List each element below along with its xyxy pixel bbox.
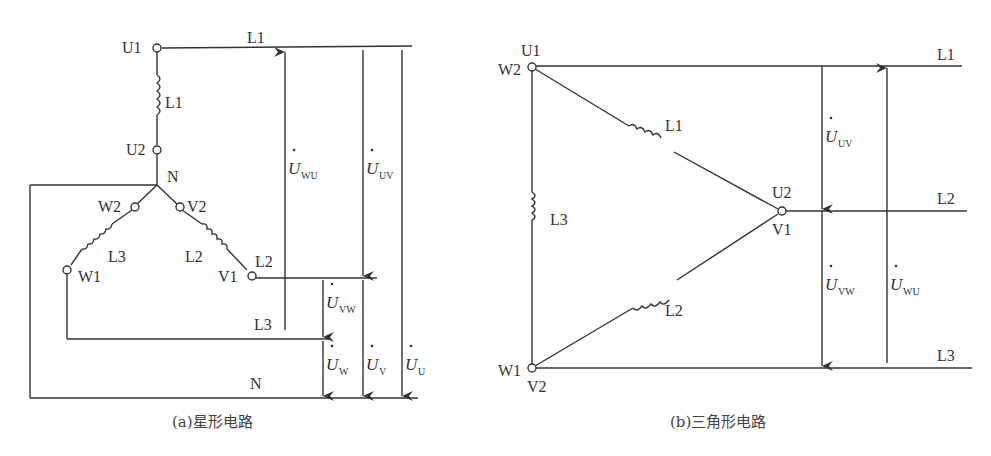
label-line-l1: L1: [937, 46, 955, 63]
svg-text:U: U: [326, 355, 340, 374]
terminal-u1-w2: [528, 63, 536, 71]
label-w2: W2: [498, 61, 521, 78]
terminal-u1: [153, 44, 161, 52]
terminal-w2: [131, 203, 139, 211]
coil-l3: [82, 224, 112, 249]
label-line-l1: L1: [247, 29, 265, 46]
star-circuit: U1 L1 L1 U2 N W2 V2 L3 L2 W1 V1 L2 L3 N …: [30, 29, 426, 431]
label-coil-l3: L3: [550, 211, 568, 228]
voltage-label-wu: U WU: [288, 149, 318, 181]
svg-text:WU: WU: [301, 170, 318, 181]
label-line-l2: L2: [937, 190, 955, 207]
svg-text:U: U: [326, 293, 340, 312]
svg-text:UV: UV: [838, 138, 853, 149]
coil-l2: [202, 224, 227, 249]
caption-star: (a)星形电路: [172, 413, 253, 431]
label-coil-l1: L1: [165, 94, 183, 111]
circuit-diagrams: U1 L1 L1 U2 N W2 V2 L3 L2 W1 V1 L2 L3 N …: [0, 0, 991, 456]
label-coil-l3: L3: [108, 248, 126, 265]
delta-circuit: U1 W2 L1 L3 L2 U2 V1 W1 V2 L1 L2 L3 U UV…: [498, 42, 972, 431]
svg-text:VW: VW: [838, 286, 855, 297]
label-coil-l1: L1: [665, 117, 683, 134]
svg-text:U: U: [418, 366, 426, 377]
coil-l2: [633, 300, 669, 310]
voltage-label-uv: U UV: [825, 117, 853, 149]
label-coil-l2: L2: [665, 302, 683, 319]
caption-delta: (b)三角形电路: [670, 413, 766, 431]
coil-l1: [629, 125, 661, 138]
voltage-label-w: U W: [326, 345, 349, 377]
label-v1: V1: [218, 268, 238, 285]
label-coil-l2: L2: [185, 248, 203, 265]
label-w1: W1: [498, 362, 521, 379]
svg-text:U: U: [825, 127, 839, 146]
label-u2: U2: [772, 184, 792, 201]
label-v2: V2: [187, 198, 207, 215]
label-line-l3: L3: [937, 347, 955, 364]
svg-text:U: U: [366, 355, 380, 374]
svg-text:W: W: [339, 366, 349, 377]
label-line-l2: L2: [255, 253, 273, 270]
label-line-l3: L3: [254, 316, 272, 333]
svg-text:VW: VW: [339, 304, 356, 315]
svg-text:U: U: [288, 159, 302, 178]
svg-text:U: U: [405, 355, 419, 374]
terminal-u2: [153, 146, 161, 154]
svg-text:V: V: [379, 366, 387, 377]
coil-l3: [532, 192, 535, 220]
coil-l1: [157, 75, 160, 115]
label-w2: W2: [98, 198, 121, 215]
voltage-label-u: U U: [405, 345, 426, 377]
terminal-v1: [248, 272, 256, 280]
voltage-label-wu: U WU: [890, 265, 920, 297]
voltage-label-v: U V: [366, 345, 387, 377]
label-u1: U1: [521, 42, 541, 59]
svg-text:U: U: [366, 159, 380, 178]
label-v1: V1: [772, 221, 792, 238]
voltage-label-vw: U VW: [825, 265, 855, 297]
svg-text:U: U: [825, 275, 839, 294]
terminal-u2-v1: [778, 207, 786, 215]
label-line-n: N: [250, 375, 262, 392]
voltage-label-uv: U UV: [366, 149, 394, 181]
label-v2: V2: [527, 378, 547, 395]
terminal-w1-v2: [528, 364, 536, 372]
svg-text:WU: WU: [903, 286, 920, 297]
svg-text:U: U: [890, 275, 904, 294]
label-u1: U1: [122, 39, 142, 56]
voltage-label-vw: U VW: [326, 283, 356, 315]
label-n: N: [167, 168, 179, 185]
svg-text:UV: UV: [379, 170, 394, 181]
label-u2: U2: [126, 141, 146, 158]
terminal-w1: [63, 266, 71, 274]
terminal-v2: [176, 203, 184, 211]
label-w1: W1: [78, 268, 101, 285]
